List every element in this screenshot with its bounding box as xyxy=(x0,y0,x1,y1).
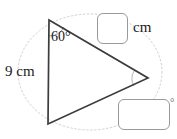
degree-unit-label: ° xyxy=(170,96,174,108)
cm-unit-label: cm xyxy=(133,19,151,36)
geometry-figure: 9 cm 60° cm ° xyxy=(0,0,177,139)
angle-measure-label: 60° xyxy=(51,29,71,45)
side-answer-input[interactable] xyxy=(97,13,128,44)
angle-answer-input[interactable] xyxy=(118,99,170,130)
side-length-label: 9 cm xyxy=(5,63,35,80)
